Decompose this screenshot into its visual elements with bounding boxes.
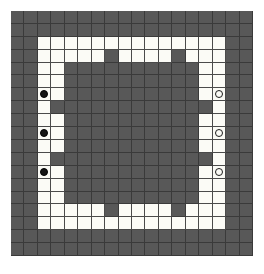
board-cell[interactable] [11, 179, 24, 192]
board-cell[interactable] [145, 88, 158, 101]
board-cell[interactable] [38, 166, 51, 179]
board-cell[interactable] [38, 153, 51, 166]
board-cell[interactable] [92, 75, 105, 88]
board-cell[interactable] [172, 11, 185, 24]
board-cell[interactable] [65, 50, 78, 63]
board-cell[interactable] [38, 217, 51, 230]
board-cell[interactable] [38, 50, 51, 63]
board-cell[interactable] [240, 217, 253, 230]
board-cell[interactable] [65, 24, 78, 37]
board-cell[interactable] [119, 63, 132, 76]
board-cell[interactable] [132, 127, 145, 140]
board-cell[interactable] [65, 166, 78, 179]
board-cell[interactable] [159, 101, 172, 114]
board-cell[interactable] [199, 127, 212, 140]
board-cell[interactable] [240, 230, 253, 243]
board-cell[interactable] [92, 230, 105, 243]
board-cell[interactable] [51, 179, 64, 192]
board-cell[interactable] [172, 127, 185, 140]
board-cell[interactable] [213, 179, 226, 192]
board-cell[interactable] [105, 204, 118, 217]
board-cell[interactable] [105, 37, 118, 50]
board-cell[interactable] [119, 166, 132, 179]
board-cell[interactable] [119, 153, 132, 166]
board-cell[interactable] [38, 75, 51, 88]
board-cell[interactable] [159, 153, 172, 166]
board-cell[interactable] [240, 37, 253, 50]
board-cell[interactable] [172, 217, 185, 230]
board-cell[interactable] [199, 114, 212, 127]
board-cell[interactable] [24, 217, 37, 230]
board-cell[interactable] [92, 37, 105, 50]
board-cell[interactable] [51, 114, 64, 127]
board-cell[interactable] [65, 75, 78, 88]
black-stone[interactable] [40, 129, 48, 137]
board-cell[interactable] [132, 166, 145, 179]
board-cell[interactable] [132, 243, 145, 256]
board-cell[interactable] [132, 114, 145, 127]
board-cell[interactable] [199, 37, 212, 50]
board-cell[interactable] [199, 153, 212, 166]
board-cell[interactable] [132, 153, 145, 166]
board-cell[interactable] [213, 243, 226, 256]
board-cell[interactable] [92, 50, 105, 63]
board-cell[interactable] [65, 11, 78, 24]
board-cell[interactable] [51, 204, 64, 217]
board-cell[interactable] [145, 101, 158, 114]
board-cell[interactable] [38, 101, 51, 114]
board-cell[interactable] [199, 75, 212, 88]
board-cell[interactable] [199, 24, 212, 37]
board-cell[interactable] [159, 230, 172, 243]
board-cell[interactable] [172, 140, 185, 153]
board-cell[interactable] [51, 75, 64, 88]
board-cell[interactable] [172, 179, 185, 192]
board-cell[interactable] [78, 243, 91, 256]
board-cell[interactable] [11, 37, 24, 50]
board-cell[interactable] [65, 114, 78, 127]
board-cell[interactable] [226, 114, 239, 127]
board-cell[interactable] [78, 24, 91, 37]
board-cell[interactable] [159, 75, 172, 88]
board-cell[interactable] [186, 114, 199, 127]
board-cell[interactable] [38, 230, 51, 243]
board-cell[interactable] [65, 153, 78, 166]
board-cell[interactable] [213, 11, 226, 24]
board-cell[interactable] [145, 166, 158, 179]
board-cell[interactable] [11, 50, 24, 63]
board-cell[interactable] [226, 140, 239, 153]
board-cell[interactable] [105, 50, 118, 63]
board-cell[interactable] [145, 217, 158, 230]
board-cell[interactable] [145, 75, 158, 88]
board-cell[interactable] [145, 37, 158, 50]
board-cell[interactable] [226, 192, 239, 205]
board-cell[interactable] [132, 11, 145, 24]
board-cell[interactable] [172, 153, 185, 166]
board-cell[interactable] [226, 243, 239, 256]
board-cell[interactable] [132, 75, 145, 88]
board-cell[interactable] [51, 63, 64, 76]
board-cell[interactable] [159, 204, 172, 217]
board-cell[interactable] [145, 24, 158, 37]
board-cell[interactable] [105, 166, 118, 179]
board-cell[interactable] [240, 166, 253, 179]
board-cell[interactable] [119, 88, 132, 101]
board-cell[interactable] [65, 101, 78, 114]
board-cell[interactable] [24, 75, 37, 88]
board-cell[interactable] [159, 50, 172, 63]
board-cell[interactable] [65, 127, 78, 140]
board-cell[interactable] [186, 127, 199, 140]
board-cell[interactable] [145, 127, 158, 140]
board-cell[interactable] [226, 24, 239, 37]
board-cell[interactable] [78, 101, 91, 114]
board-cell[interactable] [199, 50, 212, 63]
black-stone[interactable] [40, 168, 48, 176]
board-cell[interactable] [132, 37, 145, 50]
board-cell[interactable] [172, 88, 185, 101]
board-cell[interactable] [199, 179, 212, 192]
board-cell[interactable] [119, 24, 132, 37]
board-cell[interactable] [24, 88, 37, 101]
board-cell[interactable] [186, 37, 199, 50]
board-cell[interactable] [145, 114, 158, 127]
board-cell[interactable] [172, 204, 185, 217]
board-cell[interactable] [105, 11, 118, 24]
